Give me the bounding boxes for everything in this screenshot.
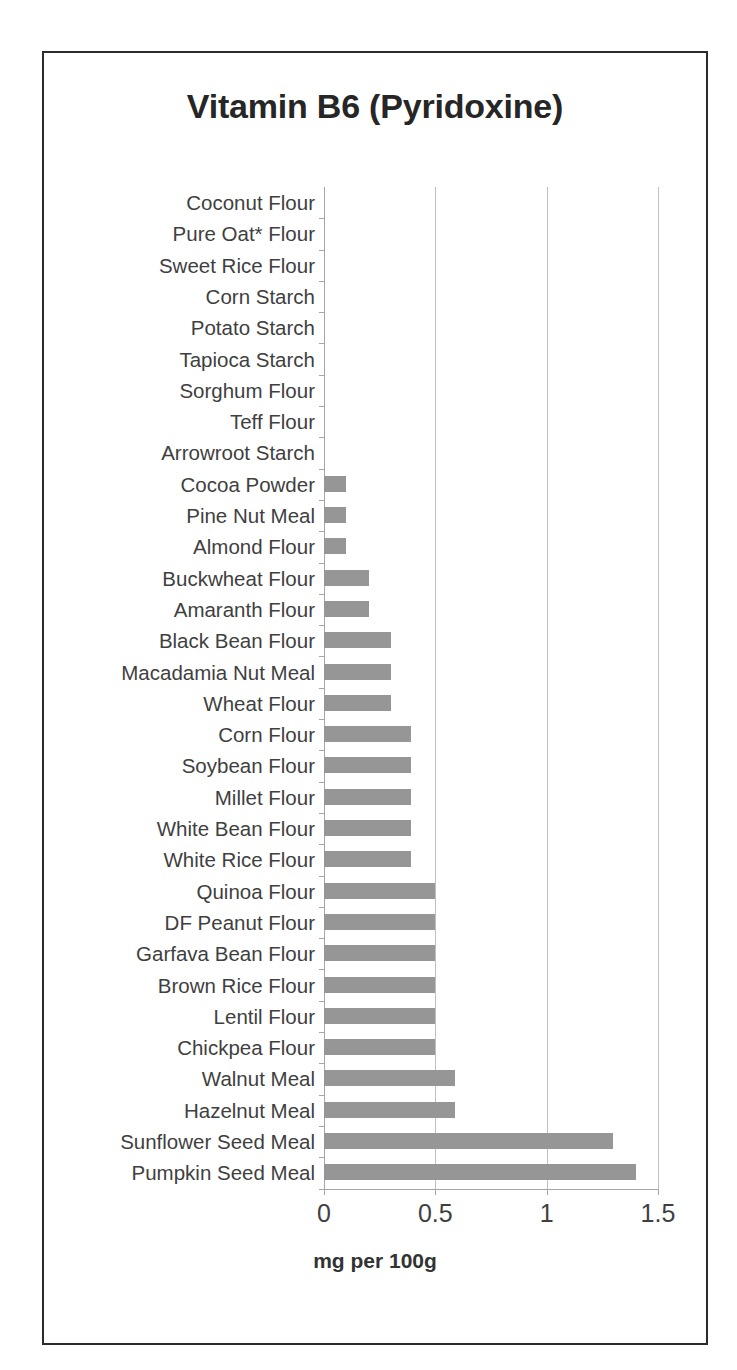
category-label: Chickpea Flour	[55, 1032, 324, 1063]
bar[interactable]	[324, 507, 346, 523]
bar-row[interactable]: Coconut Flour	[324, 187, 658, 218]
category-label: White Rice Flour	[55, 844, 324, 875]
bar-row[interactable]: Garfava Bean Flour	[324, 938, 658, 969]
bar-row[interactable]: Almond Flour	[324, 531, 658, 562]
bar-row[interactable]: Sorghum Flour	[324, 375, 658, 406]
bar-row[interactable]: Pine Nut Meal	[324, 500, 658, 531]
bar-row[interactable]: Pure Oat* Flour	[324, 218, 658, 249]
category-label: Black Bean Flour	[55, 625, 324, 656]
bar[interactable]	[324, 757, 411, 773]
bar[interactable]	[324, 1008, 435, 1024]
category-label: Almond Flour	[55, 531, 324, 562]
category-label: Potato Starch	[55, 312, 324, 343]
bar[interactable]	[324, 1164, 636, 1180]
category-label: Coconut Flour	[55, 187, 324, 218]
bar-row[interactable]: Teff Flour	[324, 406, 658, 437]
x-axis-tick	[547, 1189, 548, 1195]
category-label: Amaranth Flour	[55, 594, 324, 625]
bars-and-labels: Coconut FlourPure Oat* FlourSweet Rice F…	[324, 187, 658, 1189]
bar-row[interactable]: Quinoa Flour	[324, 876, 658, 907]
category-label: Corn Flour	[55, 719, 324, 750]
bar-row[interactable]: Potato Starch	[324, 312, 658, 343]
bar[interactable]	[324, 945, 435, 961]
bar[interactable]	[324, 1039, 435, 1055]
category-label: Soybean Flour	[55, 750, 324, 781]
category-label: Sunflower Seed Meal	[55, 1126, 324, 1157]
category-label: Millet Flour	[55, 782, 324, 813]
category-label: Lentil Flour	[55, 1001, 324, 1032]
bar[interactable]	[324, 820, 411, 836]
bar-row[interactable]: Brown Rice Flour	[324, 970, 658, 1001]
x-axis-tick-label: 0.5	[418, 1199, 453, 1228]
bar-row[interactable]: Corn Flour	[324, 719, 658, 750]
bar[interactable]	[324, 883, 435, 899]
bar-row[interactable]: Amaranth Flour	[324, 594, 658, 625]
bar-row[interactable]: Sweet Rice Flour	[324, 250, 658, 281]
bar-row[interactable]: White Rice Flour	[324, 844, 658, 875]
bar-row[interactable]: Soybean Flour	[324, 750, 658, 781]
x-axis-title: mg per 100g	[44, 1249, 706, 1273]
bar[interactable]	[324, 977, 435, 993]
x-axis-tick-label: 1.5	[641, 1199, 676, 1228]
bar-row[interactable]: Arrowroot Starch	[324, 437, 658, 468]
bar-row[interactable]: Walnut Meal	[324, 1063, 658, 1094]
category-label: White Bean Flour	[55, 813, 324, 844]
x-axis-line	[324, 1189, 658, 1190]
category-label: Walnut Meal	[55, 1063, 324, 1094]
category-label: Quinoa Flour	[55, 876, 324, 907]
bar-row[interactable]: Chickpea Flour	[324, 1032, 658, 1063]
chart-title: Vitamin B6 (Pyridoxine)	[44, 87, 706, 126]
bar[interactable]	[324, 1102, 455, 1118]
category-label: Brown Rice Flour	[55, 970, 324, 1001]
category-label: Corn Starch	[55, 281, 324, 312]
bar-row[interactable]: Pumpkin Seed Meal	[324, 1157, 658, 1188]
category-label: DF Peanut Flour	[55, 907, 324, 938]
category-label: Pumpkin Seed Meal	[55, 1157, 324, 1188]
x-axis-tick	[658, 1189, 659, 1195]
bar-row[interactable]: Cocoa Powder	[324, 469, 658, 500]
bar[interactable]	[324, 538, 346, 554]
category-label: Pure Oat* Flour	[55, 218, 324, 249]
bar[interactable]	[324, 664, 391, 680]
bar-row[interactable]: DF Peanut Flour	[324, 907, 658, 938]
bar-row[interactable]: Buckwheat Flour	[324, 563, 658, 594]
bar-row[interactable]: White Bean Flour	[324, 813, 658, 844]
bar[interactable]	[324, 1070, 455, 1086]
gridline-1.5	[658, 187, 659, 1189]
bar-row[interactable]: Lentil Flour	[324, 1001, 658, 1032]
category-label: Hazelnut Meal	[55, 1095, 324, 1126]
category-label: Cocoa Powder	[55, 469, 324, 500]
category-label: Pine Nut Meal	[55, 500, 324, 531]
bar[interactable]	[324, 632, 391, 648]
x-axis-tick-label: 0	[317, 1199, 331, 1228]
bar-row[interactable]: Hazelnut Meal	[324, 1095, 658, 1126]
category-label: Buckwheat Flour	[55, 563, 324, 594]
bar[interactable]	[324, 789, 411, 805]
bar-row[interactable]: Wheat Flour	[324, 688, 658, 719]
bar-row[interactable]: Tapioca Starch	[324, 344, 658, 375]
category-label: Sorghum Flour	[55, 375, 324, 406]
bar[interactable]	[324, 601, 369, 617]
bar[interactable]	[324, 914, 435, 930]
x-axis-tick	[324, 1189, 325, 1195]
bar-row[interactable]: Black Bean Flour	[324, 625, 658, 656]
bar-row[interactable]: Corn Starch	[324, 281, 658, 312]
bar-row[interactable]: Macadamia Nut Meal	[324, 657, 658, 688]
bar-row[interactable]: Millet Flour	[324, 782, 658, 813]
category-label: Macadamia Nut Meal	[55, 657, 324, 688]
bar-row[interactable]: Sunflower Seed Meal	[324, 1126, 658, 1157]
chart-container: Vitamin B6 (Pyridoxine) Coconut FlourPur…	[42, 51, 708, 1345]
bar[interactable]	[324, 726, 411, 742]
bar[interactable]	[324, 851, 411, 867]
bar[interactable]	[324, 695, 391, 711]
x-axis-tick	[435, 1189, 436, 1195]
category-label: Teff Flour	[55, 406, 324, 437]
category-label: Sweet Rice Flour	[55, 250, 324, 281]
bar[interactable]	[324, 570, 369, 586]
category-label: Garfava Bean Flour	[55, 938, 324, 969]
category-label: Wheat Flour	[55, 688, 324, 719]
category-label: Arrowroot Starch	[55, 437, 324, 468]
bar[interactable]	[324, 476, 346, 492]
bar[interactable]	[324, 1133, 613, 1149]
x-axis-tick-label: 1	[540, 1199, 554, 1228]
